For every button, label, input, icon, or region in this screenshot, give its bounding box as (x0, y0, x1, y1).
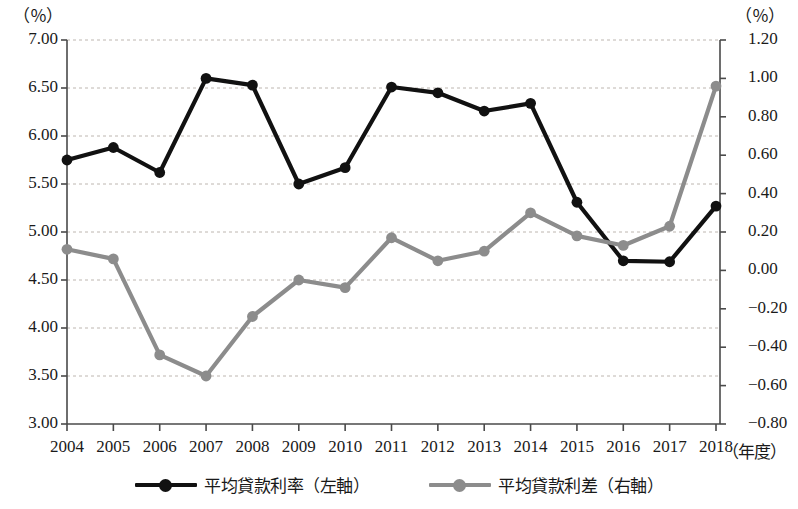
series-0-point-2007 (201, 73, 212, 84)
series-1-point-2008 (247, 311, 258, 322)
legend-marker-icon-0 (135, 478, 197, 492)
series-0-point-2008 (247, 80, 258, 91)
series-0-point-2004 (62, 155, 73, 166)
legend-item-0[interactable]: 平均貸款利率（左軸） (135, 472, 369, 497)
series-1-point-2018 (711, 81, 722, 92)
plot-area (0, 0, 798, 509)
series-1-point-2004 (62, 244, 73, 255)
series-1-point-2013 (479, 246, 490, 257)
series-1-point-2011 (386, 232, 397, 243)
legend-marker-icon-1 (429, 478, 491, 492)
legend-label-1: 平均貸款利差（右軸） (498, 472, 663, 497)
legend-item-1[interactable]: 平均貸款利差（右軸） (429, 472, 663, 497)
chart-container: （％） （％） 7.006.506.005.505.004.504.003.50… (0, 0, 798, 509)
series-1-point-2006 (154, 349, 165, 360)
series-0-point-2018 (711, 201, 722, 212)
series-1-point-2017 (664, 221, 675, 232)
series-0-point-2010 (340, 162, 351, 173)
series-1-point-2012 (432, 255, 443, 266)
series-0-point-2009 (293, 179, 304, 190)
series-0-point-2012 (432, 87, 443, 98)
series-0-point-2016 (618, 255, 629, 266)
series-1-point-2005 (108, 253, 119, 264)
series-1-point-2009 (293, 275, 304, 286)
series-1-point-2010 (340, 282, 351, 293)
series-1-point-2014 (525, 207, 536, 218)
chart-legend: 平均貸款利率（左軸）平均貸款利差（右軸） (0, 472, 798, 497)
series-1-point-2015 (572, 230, 583, 241)
series-1-point-2007 (201, 371, 212, 382)
series-0-point-2015 (572, 197, 583, 208)
legend-label-0: 平均貸款利率（左軸） (204, 472, 369, 497)
series-0-point-2014 (525, 98, 536, 109)
series-0-point-2006 (154, 167, 165, 178)
series-0-point-2013 (479, 106, 490, 117)
series-0-point-2017 (664, 256, 675, 267)
series-1-point-2016 (618, 240, 629, 251)
series-line-1 (67, 86, 716, 376)
series-0-point-2011 (386, 82, 397, 93)
series-0-point-2005 (108, 142, 119, 153)
